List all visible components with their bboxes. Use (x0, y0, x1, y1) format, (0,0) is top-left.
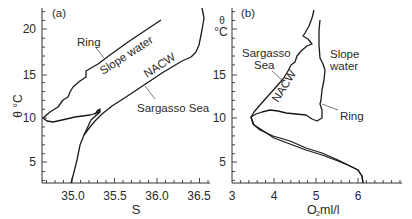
panel-b-label-sea: Sea (254, 59, 275, 71)
panel-a-tag: (a) (52, 7, 66, 19)
panel-a-xtick-35.0: 35.0 (61, 189, 85, 203)
panel-a-xtick-36.0: 36.0 (145, 189, 169, 203)
panel-a-ytick-20: 20 (23, 22, 37, 36)
panel-b-label-slope: Slope (330, 48, 359, 60)
panel-b-sargasso-nacw-curve (251, 10, 363, 183)
panel-b-x-ticks (240, 178, 400, 183)
panel-a-xtick-35.5: 35.5 (103, 189, 127, 203)
panel-b-ytick-5: 5 (219, 155, 226, 169)
panel-b: 15 10 5 3 4 5 6 O 2 ml/l θ °C (b) Sargas… (213, 7, 402, 217)
panel-a-ylabel: θ °C (11, 94, 25, 118)
panel-a-label-sargasso-sea: Sargasso Sea (137, 102, 210, 114)
panel-b-xtick-6: 6 (355, 189, 362, 203)
panel-a-ring-leader (96, 48, 104, 58)
panel-b-label-water: water (329, 60, 358, 72)
panel-b-xlabel-unit: ml/l (320, 203, 339, 217)
panel-a: 20 15 10 5 35.0 35.5 36.0 36.5 S θ °C (a… (11, 7, 211, 217)
panel-b-ytick-15: 15 (213, 68, 227, 82)
panel-a-ytick-5: 5 (29, 155, 36, 169)
panel-b-ring-slope-curve (251, 20, 363, 183)
panel-a-ytick-15: 15 (23, 68, 37, 82)
panel-a-sargasso-leader (145, 86, 155, 99)
panel-a-xtick-36.5: 36.5 (187, 189, 211, 203)
panel-b-label-nacw: NACW (270, 68, 299, 104)
panel-a-label-ring: Ring (77, 36, 101, 48)
figure: 20 15 10 5 35.0 35.5 36.0 36.5 S θ °C (a… (0, 0, 412, 219)
panel-b-ytick-10: 10 (213, 111, 227, 125)
panel-a-xlabel: S (132, 202, 141, 217)
panel-b-ylabel-unit: °C (214, 25, 228, 39)
panel-b-y-ticks (232, 12, 237, 181)
panel-b-label-ring: Ring (340, 110, 364, 122)
panel-b-xtick-4: 4 (271, 189, 278, 203)
panel-b-label-sargasso: Sargasso (242, 47, 291, 59)
panel-b-tag: (b) (241, 7, 255, 19)
panel-b-xtick-5: 5 (313, 189, 320, 203)
panel-b-ring-leader (322, 104, 338, 110)
panel-a-y-ticks (42, 12, 47, 181)
panel-b-xlabel: O 2 ml/l (307, 203, 339, 217)
panel-b-xtick-3: 3 (229, 189, 236, 203)
